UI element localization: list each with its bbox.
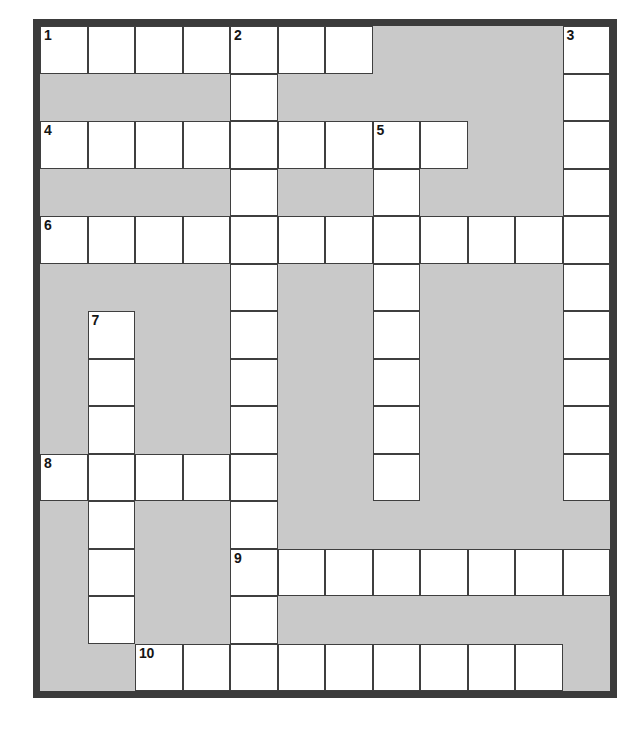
crossword-cell[interactable] (135, 121, 183, 169)
crossword-cell[interactable] (373, 216, 421, 264)
crossword-cell[interactable] (230, 264, 278, 312)
crossword-cell[interactable] (88, 216, 136, 264)
crossword-cell[interactable]: 3 (563, 26, 611, 74)
crossword-cell[interactable] (230, 406, 278, 454)
crossword-block-cell (515, 26, 563, 74)
crossword-cell[interactable] (373, 264, 421, 312)
crossword-cell[interactable] (563, 406, 611, 454)
crossword-cell[interactable]: 2 (230, 26, 278, 74)
crossword-cell[interactable] (325, 644, 373, 692)
crossword-cell[interactable] (563, 549, 611, 597)
margin-text-fragments: s;e (0, 0, 34, 745)
crossword-cell[interactable] (230, 644, 278, 692)
crossword-clue-number: 10 (139, 645, 154, 661)
crossword-cell[interactable] (230, 501, 278, 549)
crossword-cell[interactable] (373, 549, 421, 597)
crossword-cell[interactable] (278, 216, 326, 264)
crossword-cell[interactable] (468, 644, 516, 692)
crossword-cell[interactable] (563, 169, 611, 217)
crossword-cell[interactable] (88, 26, 136, 74)
crossword-block-cell (373, 74, 421, 122)
crossword-cell[interactable] (278, 549, 326, 597)
crossword-block-cell (563, 596, 611, 644)
crossword-cell[interactable] (135, 26, 183, 74)
crossword-cell[interactable] (135, 454, 183, 502)
crossword-cell[interactable] (230, 311, 278, 359)
crossword-cell[interactable] (325, 216, 373, 264)
crossword-cell[interactable] (183, 216, 231, 264)
crossword-clue-number: 7 (92, 312, 100, 328)
crossword-cell[interactable] (183, 26, 231, 74)
crossword-cell[interactable] (278, 644, 326, 692)
crossword-cell[interactable] (88, 359, 136, 407)
crossword-cell[interactable] (468, 549, 516, 597)
crossword-cell[interactable] (468, 216, 516, 264)
crossword-cell[interactable] (278, 26, 326, 74)
crossword-cell[interactable] (373, 169, 421, 217)
crossword-cell[interactable] (563, 74, 611, 122)
crossword-block-cell (373, 26, 421, 74)
crossword-cell[interactable] (88, 121, 136, 169)
crossword-cell[interactable] (373, 359, 421, 407)
crossword-cell[interactable] (373, 644, 421, 692)
crossword-cell[interactable] (515, 549, 563, 597)
crossword-cell[interactable]: 4 (40, 121, 88, 169)
crossword-cell[interactable] (135, 216, 183, 264)
crossword-cell[interactable] (230, 169, 278, 217)
crossword-cell[interactable] (373, 454, 421, 502)
crossword-block-cell (135, 549, 183, 597)
crossword-block-cell (278, 359, 326, 407)
crossword-block-cell (515, 264, 563, 312)
crossword-cell[interactable] (183, 454, 231, 502)
crossword-cell[interactable] (183, 644, 231, 692)
crossword-block-cell (468, 359, 516, 407)
crossword-cell[interactable]: 10 (135, 644, 183, 692)
crossword-grid[interactable]: 12345678910 (33, 19, 617, 698)
crossword-cell[interactable] (563, 454, 611, 502)
crossword-cell[interactable] (563, 264, 611, 312)
crossword-cell[interactable]: 8 (40, 454, 88, 502)
crossword-cell[interactable] (88, 501, 136, 549)
crossword-cell[interactable] (230, 454, 278, 502)
crossword-block-cell (420, 74, 468, 122)
crossword-block-cell (515, 359, 563, 407)
crossword-cell[interactable]: 5 (373, 121, 421, 169)
crossword-cell[interactable] (420, 121, 468, 169)
crossword-block-cell (420, 596, 468, 644)
crossword-cell[interactable] (373, 311, 421, 359)
crossword-cell[interactable] (230, 121, 278, 169)
crossword-cell[interactable]: 9 (230, 549, 278, 597)
crossword-cell[interactable]: 7 (88, 311, 136, 359)
crossword-cell[interactable] (230, 596, 278, 644)
crossword-cell[interactable] (420, 549, 468, 597)
crossword-block-cell (515, 454, 563, 502)
crossword-cell[interactable] (325, 549, 373, 597)
crossword-cell[interactable] (373, 406, 421, 454)
crossword-cell[interactable] (563, 359, 611, 407)
crossword-cell[interactable]: 6 (40, 216, 88, 264)
crossword-cell[interactable] (278, 121, 326, 169)
crossword-cell[interactable] (230, 359, 278, 407)
crossword-cell[interactable] (88, 454, 136, 502)
crossword-block-cell (420, 454, 468, 502)
crossword-cell[interactable] (563, 311, 611, 359)
crossword-cell[interactable] (325, 26, 373, 74)
crossword-cell[interactable] (230, 74, 278, 122)
crossword-clue-number: 4 (44, 122, 52, 138)
crossword-cell[interactable] (420, 216, 468, 264)
crossword-cell[interactable] (88, 406, 136, 454)
crossword-block-cell (468, 74, 516, 122)
crossword-cell[interactable] (515, 216, 563, 264)
crossword-cell[interactable] (515, 644, 563, 692)
crossword-cell[interactable] (88, 549, 136, 597)
crossword-cell[interactable] (420, 644, 468, 692)
crossword-block-cell (135, 359, 183, 407)
crossword-cell[interactable] (563, 121, 611, 169)
crossword-cell[interactable]: 1 (40, 26, 88, 74)
crossword-cell[interactable] (325, 121, 373, 169)
crossword-cell[interactable] (230, 216, 278, 264)
crossword-block-cell (40, 264, 88, 312)
crossword-cell[interactable] (563, 216, 611, 264)
crossword-cell[interactable] (183, 121, 231, 169)
crossword-cell[interactable] (88, 596, 136, 644)
